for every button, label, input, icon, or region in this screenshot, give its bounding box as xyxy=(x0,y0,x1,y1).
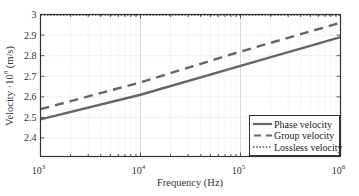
legend-lossless-label: Lossless velocity xyxy=(274,142,343,153)
x-tick-label: 104 xyxy=(132,163,146,176)
y-tick-label: 2.4 xyxy=(24,132,37,143)
data-series xyxy=(41,15,341,120)
velocity-frequency-chart: 103104105106 2.42.52.62.72.82.93 Frequen… xyxy=(0,0,359,196)
legend-phase-label: Phase velocity xyxy=(274,119,332,130)
x-tick-label: 106 xyxy=(332,163,346,176)
y-axis-title-prefix: Velocity ·10 xyxy=(4,74,15,126)
y-tick-label: 2.7 xyxy=(24,71,37,82)
y-tick-labels: 2.42.52.62.72.82.93 xyxy=(24,9,37,143)
x-axis-title: Frequency (Hz) xyxy=(157,177,224,189)
x-tick-label: 103 xyxy=(32,163,46,176)
series-group-velocity-line xyxy=(41,23,341,109)
x-tick-labels: 103104105106 xyxy=(32,163,346,176)
legend-group-label: Group velocity xyxy=(274,130,334,141)
y-tick-label: 2.8 xyxy=(24,50,37,61)
y-tick-label: 2.5 xyxy=(24,112,37,123)
legend: Phase velocity Group velocity Lossless v… xyxy=(250,116,343,156)
x-tick-label: 105 xyxy=(232,163,246,176)
y-tick-label: 2.6 xyxy=(24,91,37,102)
series-phase-velocity-line xyxy=(41,37,341,119)
y-tick-label: 2.9 xyxy=(24,30,37,41)
svg-text:Velocity ·108 (m/s): Velocity ·108 (m/s) xyxy=(2,46,16,126)
y-tick-label: 3 xyxy=(32,9,37,20)
y-axis-title-suffix: (m/s) xyxy=(4,46,16,71)
y-axis-title: Velocity ·108 (m/s) xyxy=(2,46,16,126)
